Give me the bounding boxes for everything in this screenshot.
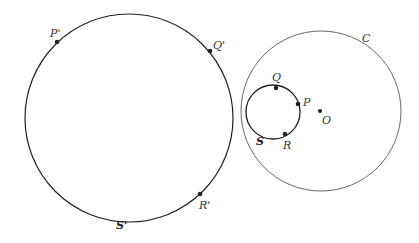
circle-s [246,85,300,139]
inversion-diagram: P' Q' R' S' C Q P R S O [0,0,419,243]
label-s-prime: S' [116,219,127,232]
point-p-prime [55,40,60,45]
point-r-prime [198,192,203,197]
label-r: R [282,139,291,152]
point-q-prime [208,49,213,54]
label-s: S [256,135,264,148]
label-q-prime: Q' [213,39,225,52]
point-o [318,109,322,113]
label-p: P [302,96,311,109]
label-c: C [362,32,371,45]
label-q: Q [272,71,281,84]
point-p [296,102,301,107]
label-o: O [322,114,331,127]
label-r-prime: R' [198,199,210,212]
point-q [274,86,279,91]
circle-s-prime [25,14,233,222]
label-p-prime: P' [49,27,60,40]
point-r [283,132,288,137]
